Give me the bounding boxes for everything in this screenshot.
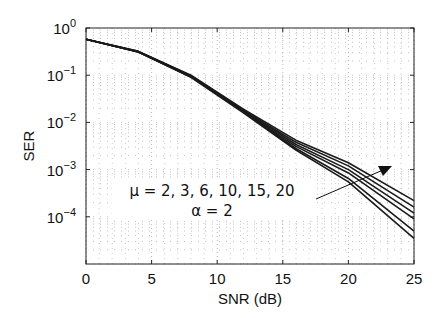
x-tick-label: 10 [209, 270, 226, 287]
y-tick-label: 100 [53, 17, 76, 37]
x-tick-label: 25 [406, 270, 423, 287]
x-axis-ticks: 0510152025 [82, 28, 423, 287]
y-tick-label: 10−4 [47, 206, 76, 226]
y-axis-label: SER [20, 130, 37, 161]
x-tick-label: 20 [340, 270, 357, 287]
y-tick-label: 10−2 [47, 111, 76, 131]
x-tick-label: 0 [82, 270, 90, 287]
plot-frame [86, 28, 414, 264]
x-tick-label: 15 [274, 270, 291, 287]
x-axis-label: SNR (dB) [218, 290, 282, 307]
annotation-alpha: α = 2 [191, 202, 233, 220]
grid [86, 28, 414, 264]
x-tick-label: 5 [147, 270, 155, 287]
ser-vs-snr-chart: 0510152025 10010−110−210−310−4 SNR (dB) … [0, 0, 445, 318]
y-tick-label: 10−1 [47, 64, 76, 84]
y-tick-label: 10−3 [47, 159, 76, 179]
annotation-mu: μ = 2, 3, 6, 10, 15, 20 [129, 182, 294, 200]
